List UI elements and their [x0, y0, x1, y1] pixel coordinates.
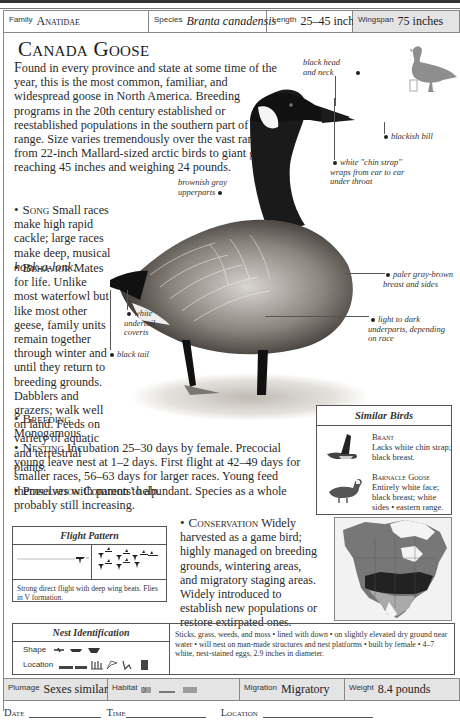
size-silhouette-icon — [403, 42, 458, 97]
species-value: Branta canadensis — [186, 14, 276, 29]
conservation-text: Widely harvested as a game bird; highly … — [180, 516, 317, 629]
header-bar: Family Anatidae Species Branta canadensi… — [3, 10, 460, 33]
nest-shape-label: Shape — [23, 645, 46, 654]
observation-log: Date Time Location — [4, 707, 460, 718]
flight-pattern-box: Flight Pattern — [12, 526, 167, 602]
annotation-breast: paler gray-brown breast and sides — [383, 270, 460, 289]
left-frame-rule — [3, 33, 4, 711]
v-formation-icon — [92, 545, 166, 579]
annotation-bill: blackish bill — [381, 132, 433, 142]
north-america-range-map — [335, 518, 452, 621]
length-cell: Length 25–45 inches — [267, 11, 353, 32]
flight-pattern-title: Flight Pattern — [13, 527, 166, 545]
wingspan-value: 75 inches — [398, 14, 444, 29]
family-label: Family — [9, 15, 33, 24]
time-field[interactable] — [126, 708, 206, 718]
top-rule — [0, 0, 460, 3]
leader-line-breast — [345, 273, 385, 274]
v-formation-diagram — [92, 545, 166, 579]
barnacle-goose-desc: Entirely white face; black breast; white… — [372, 482, 454, 512]
habitat-cell: Habitat — [108, 679, 240, 700]
plumage-value: Sexes similar — [44, 682, 108, 697]
weight-cell: Weight 8.4 pounds — [345, 679, 459, 700]
nest-description: Sticks, grass, weeds, and moss • lined w… — [170, 624, 454, 674]
annotation-chin-strap: white "chin strap" wraps from ear to ear… — [330, 158, 410, 187]
habitat-label: Habitat — [112, 683, 137, 692]
conservation-section: Conservation Widely harvested as a game … — [180, 516, 320, 630]
barnacle-goose-icon — [325, 472, 365, 504]
time-label: Time — [106, 707, 125, 718]
barnacle-goose-name: Barnacle Goose — [372, 472, 454, 482]
weight-label: Weight — [349, 683, 374, 692]
species-label: Species — [154, 15, 182, 24]
nest-location-icons — [59, 659, 153, 671]
leader-line-undertail — [127, 290, 128, 310]
direct-flight-diagram — [13, 545, 92, 579]
similar-bird-barnacle-goose: Barnacle Goose Entirely white face; blac… — [372, 472, 454, 512]
canada-goose-illustration — [110, 75, 375, 420]
breeding-text: Monogamous. — [14, 426, 144, 440]
wingspan-cell: Wingspan 75 inches — [353, 11, 459, 32]
family-value: Anatidae — [37, 14, 80, 29]
population-section: Population Common to abundant. Species a… — [14, 484, 314, 512]
annotation-undertail: white undertail coverts — [124, 309, 169, 338]
plumage-cell: Plumage Sexes similar — [4, 679, 108, 700]
date-label: Date — [4, 707, 24, 718]
footer-bar: Plumage Sexes similar Habitat Migration … — [3, 678, 460, 701]
location-field[interactable] — [263, 708, 373, 718]
similar-bird-brant: Brant Lacks white chin strap; black brea… — [372, 432, 454, 462]
population-heading: Population — [14, 483, 80, 498]
location-label: Location — [221, 707, 258, 718]
intro-first-letter: F — [14, 60, 22, 75]
habitat-icons — [141, 686, 201, 694]
range-map — [334, 517, 452, 621]
leader-line-bill — [384, 122, 385, 134]
species-cell: Species Branta canadensis — [149, 11, 267, 32]
leader-line-chin — [334, 98, 335, 160]
nest-location-label: Location — [23, 660, 53, 669]
leader-line-tail — [110, 290, 111, 350]
song-heading: Song — [14, 202, 49, 217]
annotation-head: black head and neck — [303, 58, 363, 77]
conservation-heading: Conservation — [180, 515, 258, 530]
nesting-heading: Nesting — [14, 440, 64, 455]
annotation-underparts: light to dark underparts, depending on r… — [368, 315, 448, 344]
annotation-tail: black tail — [107, 350, 149, 360]
nest-shape-icons — [52, 646, 102, 654]
nest-identification-title: Nest Identification — [13, 624, 169, 642]
flight-pattern-desc: Strong direct flight with deep wing beat… — [13, 580, 166, 606]
nest-identification-left: Nest Identification Shape Location — [13, 624, 170, 674]
wingspan-label: Wingspan — [358, 15, 394, 24]
leader-line-underparts — [265, 316, 369, 317]
migration-value: Migratory — [281, 682, 330, 697]
similar-birds-box: Similar Birds Brant Lacks white chin str… — [316, 405, 452, 515]
top-rule-thin — [0, 8, 460, 9]
flight-pattern-diagrams — [13, 545, 166, 580]
brant-name: Brant — [372, 432, 454, 442]
nest-location-row: Location — [13, 657, 169, 672]
family-cell: Family Anatidae — [4, 11, 149, 32]
migration-label: Migration — [244, 683, 277, 692]
length-label: Length — [272, 15, 296, 24]
weight-value: 8.4 pounds — [378, 682, 431, 697]
brant-desc: Lacks white chin strap; black breast. — [372, 442, 454, 462]
brant-icon — [325, 432, 365, 464]
migration-cell: Migration Migratory — [240, 679, 345, 700]
nest-identification-box: Nest Identification Shape Location Stick… — [12, 623, 455, 675]
annotation-upperparts: brownish gray upperparts — [178, 178, 234, 197]
leader-line-head — [335, 76, 336, 106]
similar-birds-title: Similar Birds — [317, 406, 451, 426]
page-title: Canada Goose — [18, 37, 149, 62]
behavior-heading: Behavior — [14, 260, 71, 275]
direct-flight-icon — [13, 545, 91, 579]
date-field[interactable] — [29, 708, 101, 718]
nest-shape-row: Shape — [13, 642, 169, 657]
plumage-label: Plumage — [8, 683, 40, 692]
